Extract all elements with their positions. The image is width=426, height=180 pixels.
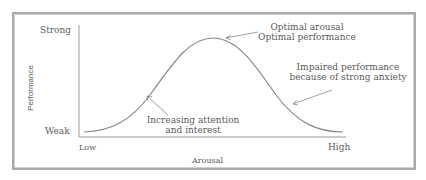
x-label-high: High — [328, 142, 350, 152]
y-label-weak: Weak — [45, 126, 70, 136]
x-label-low: Low — [79, 143, 96, 153]
y-label-strong: Strong — [40, 25, 71, 35]
annotation-impaired-line1: Impaired performance — [283, 62, 413, 72]
x-axis-title: Arousal — [192, 156, 223, 166]
impaired-arrow — [293, 90, 332, 104]
increasing-arrow — [147, 96, 168, 115]
annotation-impaired: Impaired performance because of strong a… — [283, 62, 413, 82]
annotation-increasing-line2: and interest — [138, 125, 248, 135]
annotation-optimal: Optimal arousal Optimal performance — [257, 22, 357, 42]
annotation-impaired-line2: because of strong anxiety — [283, 72, 413, 82]
y-axis-title: Performance — [26, 65, 35, 111]
annotation-increasing: Increasing attention and interest — [138, 115, 248, 135]
annotation-optimal-line1: Optimal arousal — [257, 22, 357, 32]
annotation-increasing-line1: Increasing attention — [138, 115, 248, 125]
annotation-optimal-line2: Optimal performance — [257, 32, 357, 42]
